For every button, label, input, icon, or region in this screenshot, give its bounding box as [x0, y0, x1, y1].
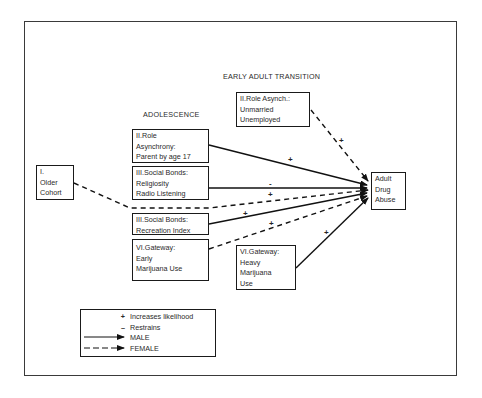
node-older-cohort: I. Older Cohort — [36, 165, 74, 200]
sign-older-cohort: + — [268, 191, 273, 199]
sign-gateway-early: + — [269, 220, 274, 228]
node-gateway-heavy: VI.Gateway: Heavy Marijuana Use — [236, 245, 296, 290]
sign-recreation: + — [243, 210, 248, 218]
sign-role-asynchrony: + — [288, 156, 293, 164]
sign-religiosity: - — [269, 180, 272, 188]
legend-row-female: FEMALE — [81, 344, 215, 354]
node-role-asynchrony: II.Role Asynchrony: Parent by age 17 — [132, 129, 209, 163]
edge-recreation — [209, 193, 367, 224]
node-gateway-early: VI.Gateway: Early Marijuana Use — [132, 239, 209, 281]
edge-role-asynchrony — [209, 145, 367, 185]
node-role-asynch-adult: II.Role Asynch.: Unmarried Unemployed — [236, 92, 310, 127]
edge-gateway-heavy — [296, 198, 368, 268]
plus-icon: + — [81, 312, 125, 321]
legend-row-male: MALE — [81, 333, 215, 343]
legend-row-restrains: – Restrains — [81, 323, 215, 333]
edge-role-asynch-adult — [311, 110, 368, 181]
edge-older-cohort — [74, 183, 368, 208]
sign-role-asynch-adult: + — [339, 137, 344, 145]
legend-row-increases: + Increases likelihood — [81, 312, 215, 322]
node-social-bonds-religiosity: III.Social Bonds: Religiosity Radio List… — [132, 166, 209, 200]
node-adult-drug-abuse: Adult Drug Abuse — [371, 172, 406, 210]
legend: + Increases likelihood – Restrains MALE … — [80, 309, 216, 357]
minus-icon: – — [81, 323, 125, 332]
sign-gateway-heavy: + — [324, 229, 329, 237]
node-social-bonds-recreation: III.Social Bonds: Recreation Index — [132, 213, 209, 235]
